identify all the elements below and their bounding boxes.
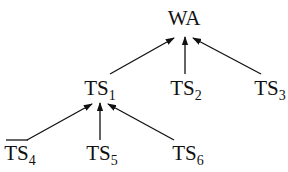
edge-ts4-ts1 <box>27 104 92 140</box>
node-ts1: TS1 <box>84 77 116 99</box>
edge-ts6-ts1 <box>108 104 174 140</box>
node-wa: WA <box>168 7 201 29</box>
node-subscript: 3 <box>279 88 286 103</box>
node-subscript: 1 <box>109 88 116 103</box>
edge-ts1-wa <box>110 38 174 74</box>
node-label: TS <box>254 76 279 100</box>
node-ts4: TS4 <box>4 142 36 164</box>
node-label: TS <box>84 76 109 100</box>
node-label: TS <box>86 141 111 165</box>
node-ts5: TS5 <box>86 142 118 164</box>
node-subscript: 2 <box>195 88 202 103</box>
node-label: TS <box>170 76 195 100</box>
node-label: WA <box>168 6 201 30</box>
node-subscript: 5 <box>111 153 118 168</box>
node-subscript: 4 <box>29 153 36 168</box>
node-label: TS <box>4 141 29 165</box>
edge-ts3-wa <box>193 38 261 74</box>
edges-layer <box>0 0 288 172</box>
node-subscript: 6 <box>197 153 204 168</box>
node-ts3: TS3 <box>254 77 286 99</box>
node-ts6: TS6 <box>172 142 204 164</box>
node-ts2: TS2 <box>170 77 202 99</box>
node-label: TS <box>172 141 197 165</box>
tree-diagram: WA TS1 TS2 TS3 TS4 TS5 TS6 <box>0 0 288 172</box>
